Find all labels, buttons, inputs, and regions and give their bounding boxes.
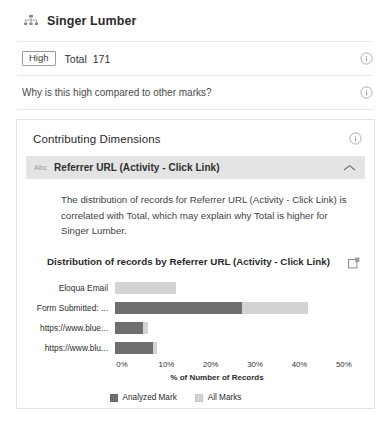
- legend-swatch: [110, 394, 118, 402]
- x-axis-tick-label: 10%: [159, 360, 175, 369]
- x-axis-title: % of Number of Records: [112, 373, 374, 382]
- contributing-dimensions-card: Contributing Dimensions Abc Referrer URL…: [16, 119, 375, 409]
- bar-track: [115, 298, 374, 318]
- card-header: Contributing Dimensions: [17, 120, 374, 156]
- narrative-text: The distribution of records for Referrer…: [17, 179, 374, 239]
- chart-legend: Analyzed MarkAll Marks: [17, 393, 374, 402]
- bar-track: [115, 278, 374, 298]
- question-row[interactable]: Why is this high compared to other marks…: [0, 76, 391, 109]
- x-axis-tick-label: 0%: [116, 360, 127, 369]
- bar-all-marks[interactable]: [115, 282, 176, 294]
- measure-value: 171: [93, 53, 111, 65]
- question-text: Why is this high compared to other marks…: [22, 87, 212, 98]
- measure-label: Total: [65, 53, 87, 65]
- bar-category-label: https://www.blue...: [17, 323, 115, 333]
- abc-text-dimension-icon: Abc: [34, 163, 49, 172]
- bar-track: [115, 318, 374, 338]
- legend-item[interactable]: Analyzed Mark: [110, 393, 177, 402]
- x-axis-tick-label: 20%: [203, 360, 219, 369]
- bar-row: https://www.blue...: [17, 318, 374, 338]
- bar-category-label: Eloqua Email: [17, 283, 115, 293]
- legend-item[interactable]: All Marks: [195, 393, 242, 402]
- bar-track: [115, 338, 374, 358]
- divider: [18, 109, 373, 110]
- info-icon[interactable]: [349, 132, 362, 145]
- chart-header: Distribution of records by Referrer URL …: [17, 239, 374, 269]
- bar-category-label: Form Submitted: ...: [17, 303, 115, 313]
- bar-row: https://www.blu...: [17, 338, 374, 358]
- mark-header: Singer Lumber: [0, 0, 391, 41]
- status-badge: High: [22, 51, 56, 66]
- info-icon[interactable]: [360, 86, 373, 99]
- bar-analyzed-mark[interactable]: [115, 322, 143, 334]
- x-axis-tick-label: 30%: [247, 360, 263, 369]
- x-axis-tick-label: 50%: [336, 360, 352, 369]
- bar-row: Eloqua Email: [17, 278, 374, 298]
- x-axis: 0%10%20%30%40%50%: [122, 358, 366, 372]
- info-icon[interactable]: [360, 52, 373, 65]
- summary-row: High Total 171: [0, 42, 391, 75]
- legend-swatch: [195, 394, 203, 402]
- bar-analyzed-mark[interactable]: [115, 342, 153, 354]
- accordion-header-referrer-url[interactable]: Abc Referrer URL (Activity - Click Link): [26, 156, 365, 179]
- accordion-title: Referrer URL (Activity - Click Link): [54, 162, 343, 173]
- open-in-new-window-icon[interactable]: [348, 257, 360, 269]
- x-axis-tick-label: 40%: [292, 360, 308, 369]
- hierarchy-icon: [24, 15, 38, 27]
- bar-analyzed-mark[interactable]: [115, 302, 242, 314]
- bar-category-label: https://www.blu...: [17, 343, 115, 353]
- page-title: Singer Lumber: [47, 14, 137, 28]
- chevron-up-icon[interactable]: [343, 164, 356, 172]
- svg-text:Abc: Abc: [34, 163, 47, 172]
- legend-label: All Marks: [208, 393, 242, 402]
- bar-row: Form Submitted: ...: [17, 298, 374, 318]
- bar-chart: Eloqua EmailForm Submitted: ...https://w…: [17, 269, 374, 402]
- chart-title: Distribution of records by Referrer URL …: [47, 256, 348, 267]
- card-title: Contributing Dimensions: [33, 133, 349, 145]
- legend-label: Analyzed Mark: [123, 393, 177, 402]
